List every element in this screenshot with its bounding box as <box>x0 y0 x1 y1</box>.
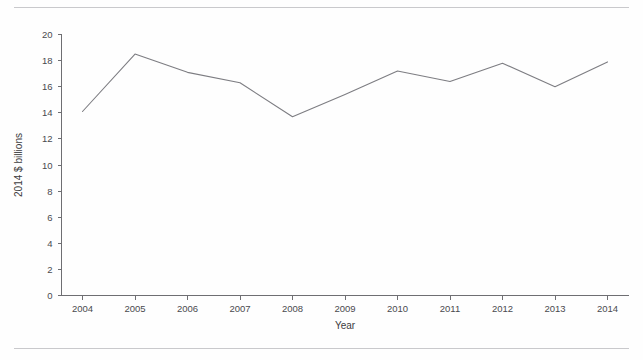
y-tick-label: 8 <box>47 186 52 197</box>
x-tick-label: 2007 <box>229 303 250 314</box>
y-axis: 02468101214161820 2014 $ billions <box>13 29 62 301</box>
x-tick-label: 2005 <box>124 303 145 314</box>
x-tick-label: 2009 <box>334 303 355 314</box>
x-tick-label: 2013 <box>544 303 565 314</box>
series-line-2014-dollars-billions <box>83 54 608 117</box>
y-tick-group: 02468101214161820 <box>42 29 62 301</box>
y-tick-label: 6 <box>47 212 52 223</box>
x-tick-label: 2012 <box>492 303 513 314</box>
x-tick-label: 2011 <box>440 303 460 314</box>
figure-page: 02468101214161820 2014 $ billions 200420… <box>0 0 643 360</box>
x-tick-label: 2004 <box>72 303 93 314</box>
y-tick-label: 0 <box>47 290 52 301</box>
bottom-divider-rule <box>14 348 629 349</box>
x-tick-label: 2008 <box>282 303 303 314</box>
y-tick-label: 14 <box>42 107 53 118</box>
line-chart-figure: 02468101214161820 2014 $ billions 200420… <box>0 14 643 339</box>
y-tick-label: 12 <box>42 133 53 144</box>
top-divider-rule <box>14 7 629 8</box>
x-tick-label: 2006 <box>177 303 198 314</box>
x-tick-group: 2004200520062007200820092010201120122013… <box>72 296 618 314</box>
y-tick-label: 2 <box>47 264 52 275</box>
y-tick-label: 20 <box>42 29 53 40</box>
y-tick-label: 18 <box>42 55 53 66</box>
y-tick-label: 16 <box>42 81 53 92</box>
x-axis-title: Year <box>335 320 356 331</box>
y-tick-label: 4 <box>47 238 52 249</box>
y-tick-label: 10 <box>42 160 53 171</box>
x-axis: 2004200520062007200820092010201120122013… <box>62 296 629 332</box>
y-axis-title: 2014 $ billions <box>13 133 24 197</box>
x-tick-label: 2010 <box>387 303 408 314</box>
series-group <box>83 54 608 117</box>
chart-svg: 02468101214161820 2014 $ billions 200420… <box>0 14 643 339</box>
x-tick-label: 2014 <box>597 303 618 314</box>
